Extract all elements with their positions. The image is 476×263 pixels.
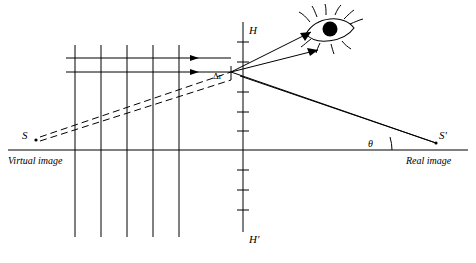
label-theta: θ bbox=[368, 138, 373, 149]
label-delta-r: Δr bbox=[213, 71, 222, 81]
wavefront-lines bbox=[75, 45, 179, 237]
incoming-rays bbox=[66, 58, 231, 72]
incoming-ray-arrowheads bbox=[190, 55, 199, 75]
theta-angle-arc bbox=[390, 137, 392, 150]
virtual-rays bbox=[40, 72, 231, 141]
convergent-rays bbox=[231, 72, 436, 143]
diagram-canvas: H H' Δr S S' Virtual image Real image θ bbox=[0, 0, 476, 263]
label-virtual-image: Virtual image bbox=[8, 155, 63, 166]
virtual-ray-lower bbox=[40, 80, 231, 141]
eye-icon bbox=[299, 4, 363, 54]
refracted-ray-arrowheads bbox=[300, 32, 318, 56]
refracted-ray-lower bbox=[231, 50, 318, 72]
convergent-ray-lower bbox=[240, 76, 436, 143]
virtual-ray-upper bbox=[40, 72, 231, 137]
image-point bbox=[434, 141, 437, 144]
optics-diagram: H H' Δr S S' Virtual image Real image θ bbox=[0, 0, 476, 263]
label-h-top: H bbox=[248, 24, 258, 36]
label-h-bottom: H' bbox=[248, 233, 260, 245]
source-point bbox=[34, 138, 37, 141]
label-real-image: Real image bbox=[405, 155, 452, 166]
label-source-s: S bbox=[22, 129, 28, 141]
label-image-s-prime: S' bbox=[439, 129, 448, 141]
